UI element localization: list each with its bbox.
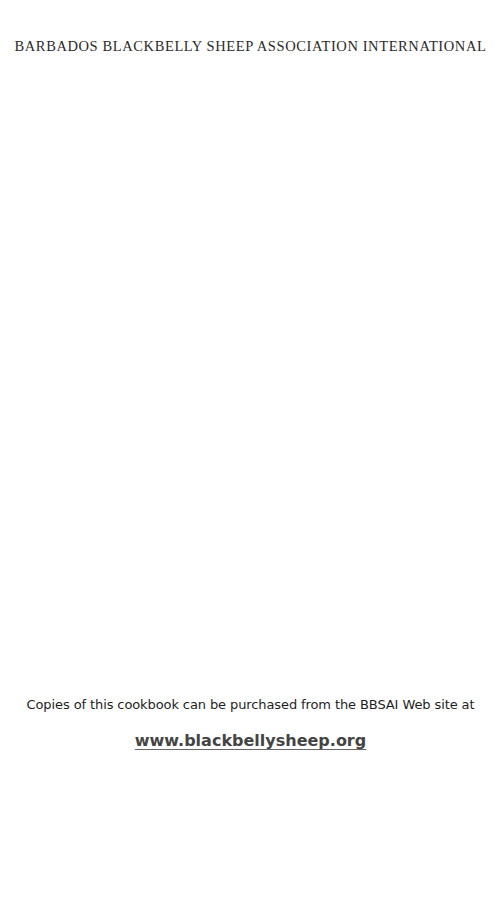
website-link-container: www.blackbellysheep.org	[0, 731, 501, 750]
website-link[interactable]: www.blackbellysheep.org	[135, 731, 366, 750]
organization-title: BARBADOS BLACKBELLY SHEEP ASSOCIATION IN…	[0, 38, 501, 55]
purchase-note: Copies of this cookbook can be purchased…	[0, 697, 501, 712]
